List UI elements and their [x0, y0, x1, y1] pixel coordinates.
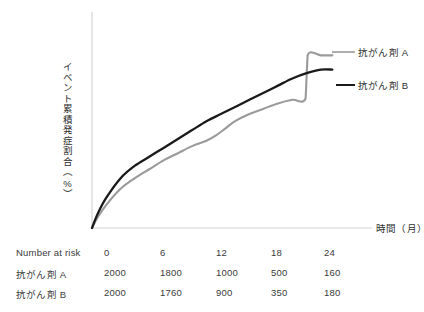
- risk-b-6: 1760: [160, 287, 182, 298]
- legend-label-anticancer-b: 抗がん剤 B: [358, 78, 408, 92]
- risk-a-18: 500: [271, 267, 287, 278]
- x-axis-title: 時間（月）: [376, 221, 424, 235]
- legend-label-anticancer-a: 抗がん剤 A: [358, 45, 408, 59]
- risk-b-12: 900: [216, 287, 232, 298]
- risk-a-0: 2000: [104, 267, 126, 278]
- xtick-24: 24: [324, 247, 335, 258]
- number-at-risk-label: Number at risk: [16, 247, 81, 258]
- xtick-12: 12: [216, 247, 227, 258]
- table-row-header: Number at risk 0 6 12 18 24: [0, 244, 424, 264]
- table-row: 抗がん剤 B 2000 1760 900 350 180: [0, 284, 424, 304]
- risk-b-18: 350: [271, 287, 287, 298]
- risk-a-24: 160: [324, 267, 340, 278]
- row-label-anticancer-b: 抗がん剤 B: [16, 287, 66, 301]
- table-row: 抗がん剤 A 2000 1800 1000 500 160: [0, 264, 424, 284]
- risk-b-0: 2000: [104, 287, 126, 298]
- y-axis-title: イベント累積発症割合（%）: [58, 62, 74, 200]
- number-at-risk-table: Number at risk 0 6 12 18 24 抗がん剤 A 2000 …: [0, 244, 424, 304]
- xtick-18: 18: [271, 247, 282, 258]
- xtick-6: 6: [160, 247, 165, 258]
- risk-a-12: 1000: [216, 267, 238, 278]
- risk-a-6: 1800: [160, 267, 182, 278]
- row-label-anticancer-a: 抗がん剤 A: [16, 267, 66, 281]
- risk-b-24: 180: [324, 287, 340, 298]
- series-line-anticancer-b: [92, 69, 332, 228]
- xtick-0: 0: [104, 247, 109, 258]
- cumulative-incidence-chart: 抗がん剤 A 抗がん剤 B 時間（月） イベント累積発症割合（%） Number…: [0, 0, 424, 312]
- series-line-anticancer-a: [92, 52, 332, 228]
